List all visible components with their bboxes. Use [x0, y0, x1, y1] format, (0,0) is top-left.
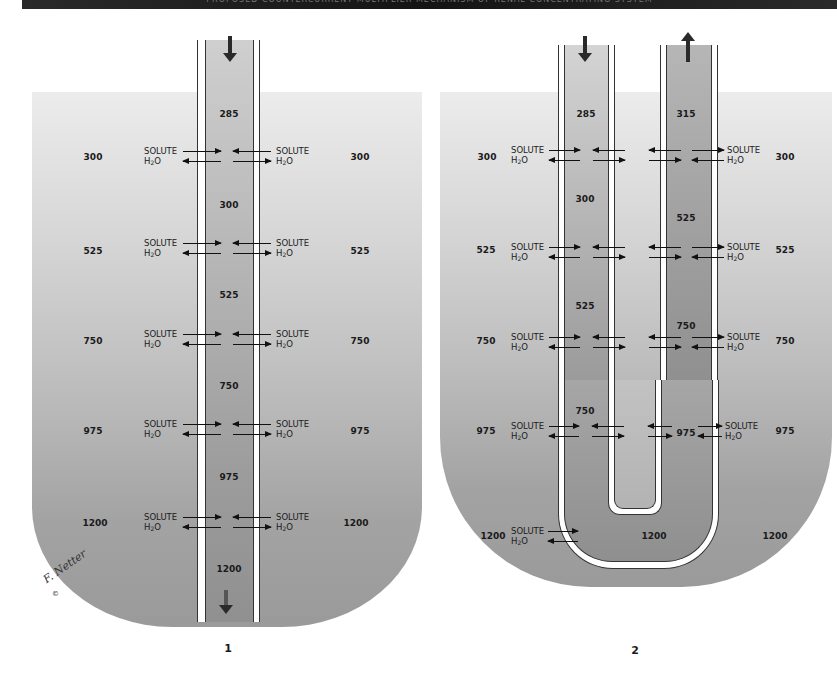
figure-1-inflow-arrow-icon: [228, 36, 232, 54]
figure-1-tubule-lumen: [205, 40, 254, 622]
solute-arrow-icon: [593, 337, 625, 338]
solute-label: SOLUTE: [276, 419, 309, 429]
water-out-arrow-icon: [233, 161, 271, 162]
water-label: H2O: [511, 155, 528, 167]
water-out-arrow-icon: [549, 160, 580, 161]
water-label: H2O: [276, 339, 293, 351]
figure-2-interstitial-right: 975: [776, 426, 795, 436]
figure-2-interstitial-right: 1200: [762, 531, 787, 541]
solute-in-arrow-icon: [183, 243, 221, 244]
figure-1-outflow-arrow-icon: [224, 590, 228, 606]
figure-2-interstitial-left: 1200: [480, 531, 505, 541]
solute-label: SOLUTE: [144, 238, 177, 248]
solute-label: SOLUTE: [511, 526, 544, 536]
water-arrow-icon: [593, 257, 625, 258]
water-out-arrow-icon: [183, 434, 221, 435]
solute-label: SOLUTE: [511, 145, 544, 155]
figure-1-interstitial-right: 975: [351, 426, 370, 436]
solute-label: SOLUTE: [144, 419, 177, 429]
solute-in-arrow-icon: [233, 517, 271, 518]
water-out-arrow-icon: [183, 253, 221, 254]
solute-out-arrow-icon: [692, 247, 724, 248]
figure-1-interstitial-right: 300: [351, 152, 370, 162]
figure-1-interstitial-left: 300: [84, 152, 103, 162]
solute-in-arrow-icon: [233, 151, 271, 152]
solute-label: SOLUTE: [727, 242, 760, 252]
figure-2-descending-value: 525: [576, 301, 595, 311]
water-label: H2O: [511, 536, 528, 548]
solute-arrow-icon: [649, 247, 681, 248]
solute-label: SOLUTE: [276, 329, 309, 339]
water-label: H2O: [727, 252, 744, 264]
solute-in-arrow-icon: [233, 334, 271, 335]
figure-1-tubule-value: 975: [220, 472, 239, 482]
water-label: H2O: [144, 339, 161, 351]
solute-arrow-icon: [593, 150, 625, 151]
water-label: H2O: [511, 431, 528, 443]
figure-2-interstitial-right: 300: [776, 152, 795, 162]
header-bar: PROPOSED COUNTERCURRENT MULTIPLIER MECHA…: [22, 0, 837, 9]
solute-in-arrow-icon: [549, 150, 580, 151]
figure-1-number: 1: [224, 642, 232, 655]
water-arrow-icon: [692, 347, 724, 348]
figure-1-interstitial-left: 525: [84, 246, 103, 256]
figure-1-interstitial-left: 1200: [82, 518, 107, 528]
water-out-arrow-icon: [233, 344, 271, 345]
solute-in-arrow-icon: [183, 517, 221, 518]
figure-2-interstitial-left: 750: [477, 336, 496, 346]
water-out-arrow-icon: [549, 347, 580, 348]
water-label: H2O: [725, 431, 742, 443]
figure-1-tubule-value: 525: [220, 290, 239, 300]
solute-in-arrow-icon: [183, 151, 221, 152]
figure-2-ascending-value: 750: [677, 321, 696, 331]
figure-1-interstitial-right: 525: [351, 246, 370, 256]
water-label: H2O: [144, 429, 161, 441]
solute-label: SOLUTE: [276, 238, 309, 248]
water-label: H2O: [276, 429, 293, 441]
water-arrow-icon: [649, 347, 681, 348]
copyright-mark: ©: [52, 590, 59, 598]
solute-label: SOLUTE: [144, 329, 177, 339]
water-arrow-icon: [649, 257, 681, 258]
water-arrow-icon: [593, 347, 625, 348]
solute-label: SOLUTE: [511, 332, 544, 342]
water-out-arrow-icon: [233, 253, 271, 254]
water-out-arrow-icon: [233, 527, 271, 528]
figure-2-descending-value: 750: [576, 406, 595, 416]
solute-arrow-icon: [592, 426, 624, 427]
water-arrow-icon: [592, 436, 624, 437]
figure-2-ascending-value: 315: [677, 109, 696, 119]
figure-1-tubule-value: 300: [220, 200, 239, 210]
water-label: H2O: [511, 342, 528, 354]
solute-in-arrow-icon: [548, 531, 578, 532]
figure-1-interstitial-left: 975: [84, 426, 103, 436]
figure-2-ascending-value: 525: [677, 213, 696, 223]
figure-1-interstitial-left: 750: [84, 336, 103, 346]
header-title: PROPOSED COUNTERCURRENT MULTIPLIER MECHA…: [22, 0, 837, 4]
water-label: H2O: [144, 156, 161, 168]
solute-arrow-icon: [649, 150, 681, 151]
figure-2-ascending-value: 975: [677, 428, 696, 438]
figure-1-interstitial-right: 1200: [343, 518, 368, 528]
solute-label: SOLUTE: [725, 421, 758, 431]
figure-2-descending-lumen: [564, 45, 609, 385]
solute-label: SOLUTE: [144, 146, 177, 156]
solute-label: SOLUTE: [511, 242, 544, 252]
solute-in-arrow-icon: [233, 243, 271, 244]
water-label: H2O: [276, 522, 293, 534]
figure-2-interstitial-left: 300: [478, 152, 497, 162]
solute-label: SOLUTE: [144, 512, 177, 522]
water-label: H2O: [144, 248, 161, 260]
solute-in-arrow-icon: [549, 426, 579, 427]
water-arrow-icon: [692, 160, 724, 161]
solute-arrow-icon: [649, 337, 681, 338]
water-out-arrow-icon: [549, 257, 580, 258]
figure-2-descending-flow-arrow-icon: [583, 36, 587, 54]
figure-2-interstitial-left: 525: [477, 245, 496, 255]
water-arrow-icon: [692, 257, 724, 258]
water-out-arrow-icon: [183, 161, 221, 162]
water-out-arrow-icon: [233, 434, 271, 435]
solute-in-arrow-icon: [183, 334, 221, 335]
water-out-arrow-icon: [183, 344, 221, 345]
water-arrow-icon: [698, 436, 722, 437]
